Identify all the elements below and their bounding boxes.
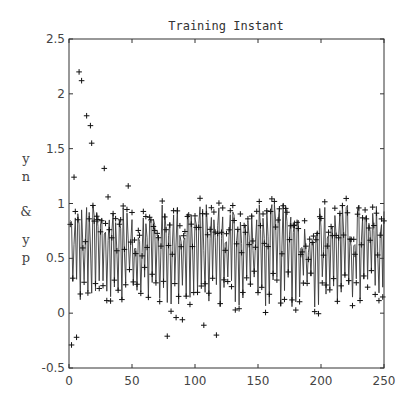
yn-plus-marker bbox=[195, 290, 201, 296]
yn-plus-marker bbox=[79, 78, 85, 84]
yn-plus-marker bbox=[74, 334, 80, 340]
yn-plus-marker bbox=[304, 281, 310, 287]
yn-plus-marker bbox=[103, 221, 109, 227]
yn-plus-marker bbox=[248, 281, 254, 287]
yn-plus-marker bbox=[75, 217, 81, 223]
yn-plus-marker bbox=[260, 211, 266, 217]
yn-plus-marker bbox=[380, 294, 386, 300]
yn-plus-marker bbox=[136, 228, 142, 234]
y-tick-label: 0 bbox=[57, 306, 65, 320]
yn-plus-marker bbox=[351, 237, 357, 243]
yn-plus-marker bbox=[153, 280, 159, 286]
yn-plus-marker bbox=[187, 302, 193, 308]
yn-plus-marker bbox=[157, 299, 163, 305]
yn-plus-marker bbox=[293, 307, 299, 313]
yn-plus-marker bbox=[356, 205, 362, 211]
yn-plus-marker bbox=[355, 211, 361, 217]
yn-plus-marker bbox=[142, 265, 148, 271]
yn-plus-marker bbox=[278, 300, 284, 306]
yn-plus-marker bbox=[206, 290, 212, 296]
yn-plus-marker bbox=[176, 294, 182, 300]
yn-plus-marker bbox=[161, 279, 167, 285]
yn-plus-marker bbox=[119, 297, 125, 303]
yn-plus-marker bbox=[338, 283, 344, 289]
yn-plus-marker bbox=[353, 280, 359, 286]
yn-plus-marker bbox=[164, 333, 170, 339]
yn-plus-marker bbox=[214, 332, 220, 338]
yn-plus-marker bbox=[73, 209, 79, 215]
yn-plus-marker bbox=[201, 322, 207, 328]
yn-plus-marker bbox=[267, 291, 273, 297]
yn-plus-marker bbox=[192, 213, 198, 219]
yn-plus-marker bbox=[374, 210, 380, 216]
y-label-char: y bbox=[21, 232, 30, 247]
yn-plus-marker bbox=[269, 196, 275, 202]
yn-plus-marker bbox=[307, 236, 313, 242]
yn-plus-marker bbox=[125, 183, 131, 189]
yn-plus-marker bbox=[233, 307, 239, 313]
y-label-char: y bbox=[21, 151, 30, 166]
y-tick-label: 1.5 bbox=[46, 142, 65, 156]
yp-line-series bbox=[70, 204, 384, 307]
yn-plus-marker bbox=[69, 342, 75, 348]
yn-plus-marker bbox=[211, 209, 217, 215]
yn-plus-marker bbox=[105, 194, 111, 200]
yn-plus-marker bbox=[369, 268, 375, 274]
yn-plus-marker bbox=[331, 276, 337, 282]
yn-plus-marker bbox=[183, 293, 189, 299]
yn-plus-marker bbox=[340, 203, 346, 209]
yn-plus-marker bbox=[156, 235, 162, 241]
yn-plus-marker bbox=[209, 205, 215, 211]
yn-plus-marker bbox=[216, 200, 222, 206]
yn-plus-marker bbox=[220, 205, 226, 211]
x-tick-label: 200 bbox=[310, 374, 333, 388]
yn-plus-marker bbox=[272, 199, 278, 205]
chart-figure: Training Instant yn&yp -0.500.511.522.5 … bbox=[0, 0, 412, 415]
yn-plus-marker bbox=[181, 233, 187, 239]
yn-plus-marker bbox=[85, 290, 91, 296]
yn-plus-marker bbox=[283, 206, 289, 212]
yn-plus-marker bbox=[88, 123, 94, 129]
yn-plus-marker bbox=[141, 209, 147, 215]
yn-plus-marker bbox=[322, 199, 328, 205]
yn-plus-marker bbox=[302, 218, 308, 224]
yn-plus-marker bbox=[110, 211, 116, 217]
yn-plus-marker bbox=[254, 209, 260, 215]
yn-plus-marker bbox=[149, 271, 155, 277]
y-tick-label: 2 bbox=[57, 87, 65, 101]
yn-plus-marker bbox=[89, 140, 95, 146]
y-label-char: p bbox=[22, 250, 30, 265]
yn-plus-marker bbox=[107, 227, 113, 233]
yn-plus-marker bbox=[100, 283, 106, 289]
yn-plus-marker bbox=[172, 281, 178, 287]
yn-plus-marker bbox=[81, 279, 87, 285]
yn-plus-marker bbox=[327, 287, 333, 293]
yn-plus-marker bbox=[127, 267, 133, 273]
yn-plus-marker bbox=[345, 210, 351, 216]
yn-plus-marker bbox=[168, 308, 174, 314]
axes-frame bbox=[69, 39, 384, 368]
yn-plus-marker bbox=[159, 198, 165, 204]
yn-plus-marker bbox=[309, 240, 315, 246]
yn-plus-marker bbox=[175, 208, 181, 214]
yn-plus-marker bbox=[240, 290, 246, 296]
yn-plus-marker bbox=[129, 210, 135, 216]
yn-plus-marker bbox=[370, 204, 376, 210]
yn-plus-marker bbox=[365, 284, 371, 290]
yn-plus-marker bbox=[343, 196, 349, 202]
yn-plus-marker bbox=[167, 222, 173, 228]
yn-plus-marker bbox=[311, 233, 317, 239]
yn-plus-marker bbox=[270, 271, 276, 277]
y-axis-label: yn&yp bbox=[20, 151, 32, 265]
yn-plus-marker bbox=[236, 306, 242, 312]
yn-plus-marker bbox=[76, 69, 82, 75]
yn-plus-marker bbox=[280, 203, 286, 209]
yn-plus-marker bbox=[346, 278, 352, 284]
yn-plus-marker bbox=[230, 203, 236, 209]
yn-plus-marker bbox=[297, 299, 303, 305]
y-tick-label: 1 bbox=[57, 197, 65, 211]
yn-plus-marker bbox=[245, 216, 251, 222]
yn-plus-marker bbox=[362, 207, 368, 213]
yn-plus-marker bbox=[124, 207, 130, 213]
yn-plus-marker bbox=[123, 282, 129, 288]
